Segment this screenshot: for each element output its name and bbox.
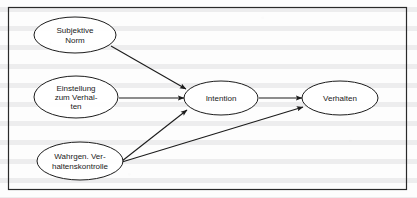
node-verhalten: Verhalten xyxy=(302,81,378,115)
theory-of-planned-behavior-diagram: SubjektiveNormEinstellungzum Verhal-tenW… xyxy=(0,0,417,198)
edge-norm-intention xyxy=(111,46,186,89)
node-subjektive-norm: SubjektiveNorm xyxy=(34,17,116,53)
edge-kontrolle-intention xyxy=(122,110,187,161)
node-einstellung-zum-verhalten: Einstellungzum Verhal-ten xyxy=(34,76,118,118)
node-intention: Intention xyxy=(184,81,258,115)
label-verhalten: Verhalten xyxy=(323,94,357,103)
label-wahrgenommene-verhaltenskontrolle: Wahrgen. Ver-haltenskontrolle xyxy=(52,152,109,170)
nodes-group: SubjektiveNormEinstellungzum Verhal-tenW… xyxy=(34,17,378,180)
label-intention: Intention xyxy=(206,94,237,103)
edge-kontrolle-verhalten xyxy=(122,107,303,162)
node-wahrgenommene-verhaltenskontrolle: Wahrgen. Ver-haltenskontrolle xyxy=(37,142,123,180)
figure-container: SubjektiveNormEinstellungzum Verhal-tenW… xyxy=(0,0,417,198)
